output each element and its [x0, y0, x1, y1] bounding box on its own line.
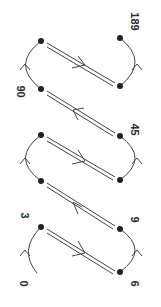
arrow-up-icon: [20, 64, 30, 70]
diagram-canvas: 0 3 6 9 45 90 189: [0, 0, 161, 307]
arc-left-lower: [26, 135, 42, 181]
arc-right-top: [120, 38, 135, 86]
node-dot: [117, 177, 123, 183]
label-45: 45: [129, 123, 140, 135]
node-dot: [38, 38, 44, 44]
arc-start-to-3: [28, 227, 41, 273]
node-dot: [117, 269, 123, 275]
node-dot: [117, 133, 123, 139]
node-dot: [38, 132, 44, 138]
node-dot: [117, 83, 123, 89]
label-9: 9: [129, 216, 140, 222]
node-dot: [117, 35, 123, 41]
arrow-up-icon: [132, 158, 142, 164]
arc-left-upper: [26, 41, 42, 89]
arc-right-bottom: [120, 229, 135, 272]
double-line-left1-to-right2: [47, 43, 115, 86]
label-3: 3: [19, 212, 30, 218]
label-189: 189: [129, 12, 140, 30]
double-line-left3-to-right4: [47, 137, 115, 180]
double-line-3-to-6: [47, 229, 115, 274]
arc-right-middle: [120, 136, 135, 180]
node-dot: [38, 224, 44, 230]
arrow-up-icon: [132, 250, 142, 256]
double-line-45-to-90: [47, 91, 115, 136]
node-dot: [38, 86, 44, 92]
arrow-up-icon: [20, 158, 30, 164]
label-90: 90: [15, 85, 26, 97]
transition-diagram: [0, 0, 161, 307]
node-dot: [117, 226, 123, 232]
node-dot: [38, 178, 44, 184]
label-0: 0: [18, 280, 29, 286]
label-6: 6: [129, 280, 140, 286]
